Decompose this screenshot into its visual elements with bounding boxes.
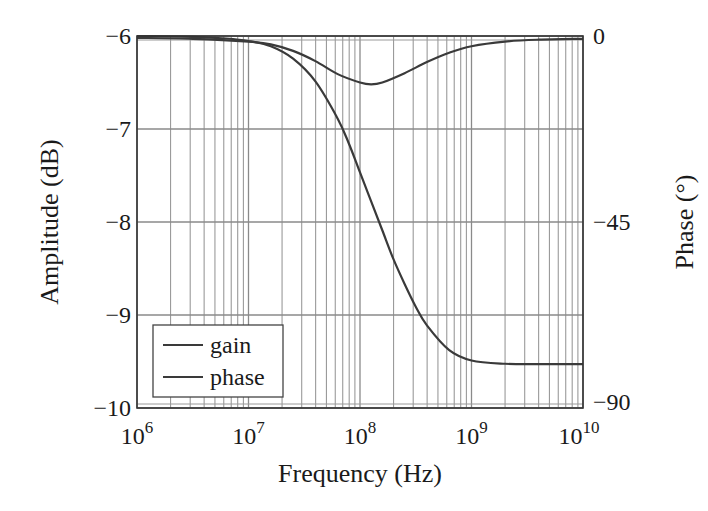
y-tick-label: −7 [105, 116, 131, 142]
legend-label-phase: phase [210, 364, 265, 390]
y-axis-title: Amplitude (dB) [35, 139, 64, 304]
y-tick-label: −9 [105, 302, 131, 328]
legend: gain phase [153, 325, 283, 397]
y2-tick-label: 0 [593, 23, 605, 49]
y-axis-ticks: −6−7−8−9−10 [93, 23, 131, 421]
x-axis-title: Frequency (Hz) [278, 459, 442, 488]
y-tick-label: −10 [93, 395, 131, 421]
bode-plot: 1061071081091010 −6−7−8−9−10 0−45−90 Fre… [0, 0, 708, 511]
x-axis-ticks: 1061071081091010 [121, 418, 600, 449]
y-tick-label: −8 [105, 209, 131, 235]
y2-tick-label: −45 [593, 209, 631, 235]
x-tick-label: 109 [455, 418, 488, 449]
x-tick-label: 1010 [559, 418, 600, 449]
x-tick-label: 107 [232, 418, 265, 449]
y2-axis-ticks: 0−45−90 [593, 23, 631, 415]
legend-label-gain: gain [210, 332, 251, 358]
y-tick-label: −6 [105, 23, 131, 49]
x-tick-label: 108 [344, 418, 377, 449]
x-tick-label: 106 [121, 418, 154, 449]
y2-tick-label: −90 [593, 389, 631, 415]
y2-axis-title: Phase (°) [670, 175, 699, 270]
